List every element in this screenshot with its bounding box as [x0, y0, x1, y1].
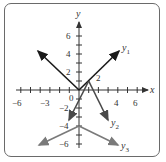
x-tick-label: 6 [133, 98, 138, 108]
y-tick-label: −6 [59, 139, 69, 149]
y-tick-label: 4 [66, 49, 71, 59]
y-tick-label: −4 [59, 121, 69, 131]
svg-text:y3: y3 [120, 140, 129, 154]
svg-text:y2: y2 [110, 117, 119, 131]
x-tick-label: −6 [12, 98, 22, 108]
origin-label: 0 [69, 93, 74, 103]
point-label: 2 [96, 73, 101, 83]
x-tick-label: −3 [40, 98, 50, 108]
y-axis [76, 22, 82, 148]
coordinate-plane: x y −6 −3 0 4 6 2 6 4 2 −2 −4 −6 y1 y2 y… [0, 0, 166, 162]
y-tick-label: 2 [66, 67, 71, 77]
y-axis-label: y [75, 8, 81, 19]
series-y1: y1 [38, 42, 130, 90]
svg-text:y1: y1 [121, 42, 130, 56]
y-tick-label: 6 [66, 31, 71, 41]
x-tick-label: 4 [114, 98, 119, 108]
x-axis-label: x [149, 84, 155, 95]
y-tick-label: −2 [59, 103, 69, 113]
